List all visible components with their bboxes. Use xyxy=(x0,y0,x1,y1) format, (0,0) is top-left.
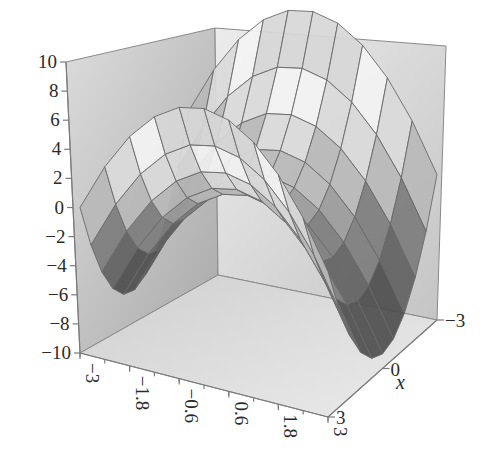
z-tick-label: −2 xyxy=(45,226,65,247)
z-tick-label: −10 xyxy=(41,342,71,363)
y-tick-label: −0.6 xyxy=(181,389,202,423)
z-tick-label: −4 xyxy=(47,255,68,276)
y-tick-label: −1.8 xyxy=(132,376,153,410)
z-tick-label: 8 xyxy=(49,80,59,101)
y-tick-label: −3 xyxy=(82,363,103,383)
x-tick-label: −3 xyxy=(445,310,465,331)
surface-plot: 1086420−2−4−6−8−10 −3−1.8−0.60.61.83 −30… xyxy=(0,0,498,476)
z-tick-label: −6 xyxy=(48,284,68,305)
z-tick-label: 4 xyxy=(52,138,62,159)
x-axis-title: x xyxy=(395,371,405,393)
z-tick-label: 10 xyxy=(38,51,57,72)
x-tick-label: 3 xyxy=(336,407,346,428)
y-tick-label: 0.6 xyxy=(231,401,252,425)
y-tick-label: 1.8 xyxy=(280,414,301,438)
z-tick-label: 6 xyxy=(50,109,60,130)
z-tick-label: −8 xyxy=(49,313,69,334)
y-tick-label: 3 xyxy=(330,427,351,437)
z-tick-label: 0 xyxy=(55,197,65,218)
z-tick-label: 2 xyxy=(53,167,63,188)
